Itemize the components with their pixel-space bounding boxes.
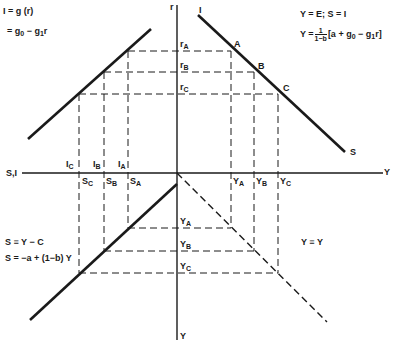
y-a-vertical-label: YA bbox=[180, 217, 191, 227]
is-curve-top-label: I bbox=[199, 6, 202, 15]
y-horizontal-axis-label: Y bbox=[384, 168, 390, 177]
s-i-axis-label: S,I bbox=[6, 169, 17, 178]
eq-text: = g bbox=[7, 26, 20, 36]
y-b-vertical-label: YB bbox=[180, 240, 191, 250]
eq-text: [a + g bbox=[328, 29, 352, 39]
investment-line bbox=[28, 29, 151, 139]
investment-equation: I = g (r) bbox=[3, 7, 33, 16]
y-a-axis-label: YA bbox=[233, 177, 244, 187]
r-axis-label: r bbox=[170, 3, 174, 12]
eq-text: Y = bbox=[300, 29, 314, 39]
y-b-axis-label: YB bbox=[256, 177, 267, 187]
y-vertical-axis-label: Y bbox=[180, 332, 186, 341]
point-c: C bbox=[283, 84, 290, 93]
identity-45-label: Y ≡ Y bbox=[301, 238, 323, 247]
is-curve-bottom-label: S bbox=[350, 148, 356, 157]
eq-text: r bbox=[44, 26, 48, 36]
eq-text: − g bbox=[24, 26, 40, 36]
r-a-label: rA bbox=[180, 40, 189, 50]
point-b: B bbox=[258, 62, 265, 71]
45-degree-line bbox=[177, 173, 327, 322]
saving-function: S = −a + (1−b) Y bbox=[5, 254, 72, 263]
is-equation: Y =11−b[a + g0 − g1r] bbox=[300, 27, 382, 42]
point-a: A bbox=[234, 40, 241, 49]
s-a-label: SA bbox=[130, 177, 141, 187]
eq-text: r] bbox=[375, 29, 382, 39]
eq-text: − g bbox=[356, 29, 372, 39]
diagram-canvas bbox=[0, 0, 396, 349]
r-c-label: rC bbox=[180, 83, 189, 93]
i-b-label: IB bbox=[93, 160, 101, 170]
multiplier-fraction: 11−b bbox=[315, 27, 327, 42]
equilibrium-condition: Y = E; S = I bbox=[300, 10, 346, 19]
s-c-label: SC bbox=[82, 177, 93, 187]
s-b-label: SB bbox=[106, 177, 117, 187]
y-c-axis-label: YC bbox=[280, 177, 291, 187]
y-c-vertical-label: YC bbox=[180, 262, 191, 272]
r-b-label: rB bbox=[180, 61, 189, 71]
investment-equation-linear: = g0 − g1r bbox=[7, 27, 47, 37]
i-c-label: IC bbox=[66, 160, 74, 170]
saving-identity: S ≡ Y − C bbox=[5, 238, 44, 247]
i-a-label: IA bbox=[118, 160, 126, 170]
